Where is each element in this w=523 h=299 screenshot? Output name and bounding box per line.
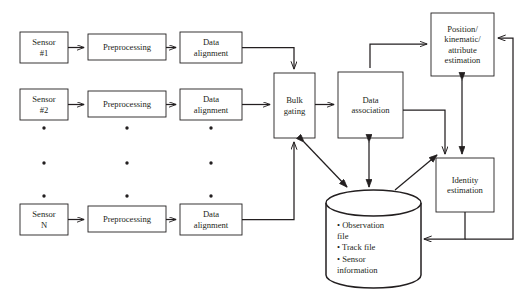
node-sensorN [20, 204, 68, 235]
node-sensor2 [20, 89, 68, 120]
node-identity [436, 158, 494, 212]
node-posest [431, 13, 494, 76]
edge-identity-to-database [424, 212, 465, 239]
node-prep1 [88, 34, 166, 60]
data-fusion-flow-diagram [0, 0, 523, 299]
ellipsis-dot [125, 161, 128, 164]
edge-alignN-to-bulk [242, 142, 294, 220]
edge-assoc-to-identity [403, 110, 445, 154]
ellipsis-dot [42, 194, 45, 197]
node-prepN [88, 206, 166, 232]
ellipsis-dot [209, 126, 212, 129]
ellipsis-dot [209, 161, 212, 164]
ellipsis-dot [209, 194, 212, 197]
ellipsis-dot [42, 126, 45, 129]
node-assoc [338, 72, 403, 138]
node-align1 [180, 32, 242, 63]
ellipsis-dot [125, 194, 128, 197]
node-sensor1 [20, 32, 68, 63]
node-alignN [180, 204, 242, 235]
edge-database-to-identity [395, 155, 437, 190]
ellipsis-dot [42, 161, 45, 164]
node-database [326, 190, 421, 288]
edge-bulk-to-database [304, 142, 347, 187]
ellipsis-dot [125, 126, 128, 129]
node-bulk [274, 73, 315, 138]
edge-assoc-to-posest [370, 44, 427, 68]
edge-align1-to-bulk [242, 48, 294, 70]
node-align2 [180, 89, 242, 120]
node-prep2 [88, 91, 166, 117]
